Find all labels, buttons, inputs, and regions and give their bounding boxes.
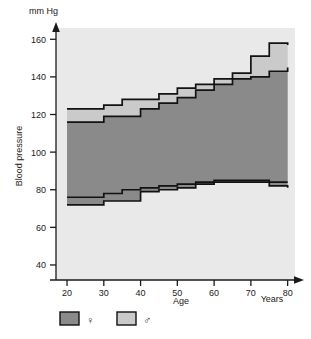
legend-item-male[interactable]: ♂ — [117, 312, 151, 326]
legend-swatch-male — [117, 312, 136, 325]
y-tick-label-60: 60 — [36, 223, 46, 233]
x-tick-label-20: 20 — [62, 288, 72, 298]
legend-swatch-female — [60, 312, 79, 325]
x-axis-title: Age — [173, 296, 189, 306]
legend-label-female: ♀ — [86, 314, 94, 326]
x-tick-label-80: 80 — [283, 288, 293, 298]
y-tick-label-100: 100 — [31, 148, 46, 158]
y-tick-label-140: 140 — [31, 72, 46, 82]
y-tick-label-160: 160 — [31, 35, 46, 45]
y-tick-label-120: 120 — [31, 110, 46, 120]
x-tick-label-40: 40 — [136, 288, 146, 298]
chart-canvas: 406080100120140160 20304050607080 mm Hg … — [0, 0, 311, 339]
x-tick-label-70: 70 — [246, 288, 256, 298]
blood-pressure-figure: 406080100120140160 20304050607080 mm Hg … — [0, 0, 311, 339]
y-unit-label: mm Hg — [29, 6, 58, 16]
y-tick-label-40: 40 — [36, 260, 46, 270]
y-axis-title: Blood pressure — [14, 126, 24, 187]
legend-label-male: ♂ — [143, 314, 151, 326]
x-unit-label: Years — [261, 294, 284, 304]
x-tick-label-30: 30 — [99, 288, 109, 298]
x-tick-label-60: 60 — [209, 288, 219, 298]
legend-item-female[interactable]: ♀ — [60, 312, 94, 326]
y-tick-label-80: 80 — [36, 185, 46, 195]
